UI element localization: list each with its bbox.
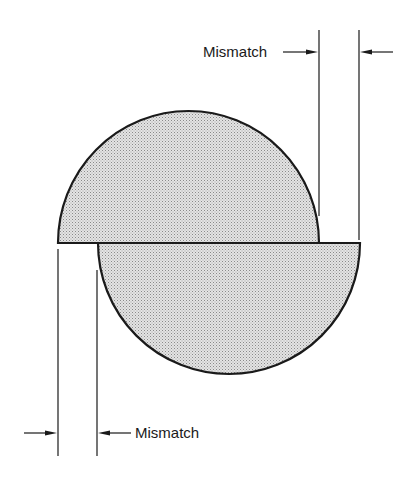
lower-half-disc [98, 243, 360, 374]
upper-half-disc [58, 111, 319, 243]
top-mismatch-label: Mismatch [203, 43, 267, 60]
bottom-arrow-left-icon [24, 431, 57, 436]
top-arrow-left-icon [283, 50, 318, 55]
mismatch-diagram: Mismatch Mismatch [0, 0, 415, 484]
bottom-arrow-right-icon [98, 431, 131, 436]
top-arrow-right-icon [360, 50, 393, 55]
bottom-mismatch-label: Mismatch [135, 424, 199, 441]
